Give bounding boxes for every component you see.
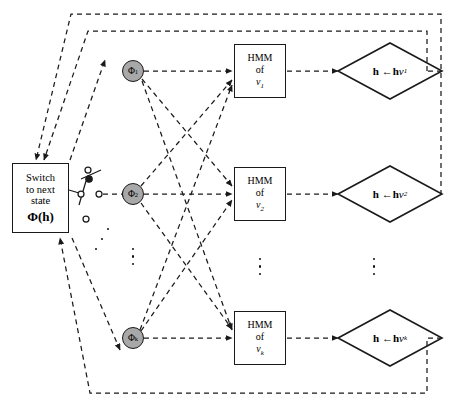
- edge-phi2-hmmk: [141, 203, 232, 329]
- switch-line-2: to next: [26, 184, 55, 195]
- switch-formula-close: ): [50, 209, 54, 224]
- hmm-block-1-line2: of: [256, 64, 264, 76]
- hmm-block-1[interactable]: HMM of v1: [234, 44, 286, 98]
- switch-to-next-state-box[interactable]: Switch to next state Φ(h): [12, 163, 69, 233]
- update-node-k[interactable]: h ←hvk: [338, 310, 442, 366]
- ellipsis-hmm-blocks: [259, 258, 261, 280]
- switch-contact-links: [69, 170, 101, 205]
- switch-return-up: [70, 60, 105, 160]
- update-node-2-arrow: ←: [382, 188, 393, 200]
- diagram-canvas: Switch to next state Φ(h) Φ1 Φ2 Φk HMM o…: [0, 0, 452, 407]
- ellipsis-state-nodes: [132, 248, 134, 270]
- phi-node-k-symbol: Φ: [128, 333, 135, 343]
- phi-node-k-subscript: k: [135, 335, 138, 342]
- phi-node-2-symbol: Φ: [128, 189, 135, 199]
- hmm-block-2-subscript: 2: [260, 205, 264, 213]
- phi-node-k[interactable]: Φk: [122, 327, 144, 349]
- update-node-1[interactable]: h ←hv1: [338, 43, 442, 99]
- update-node-2-subscript: 2: [404, 190, 408, 198]
- switch-line-3: state: [31, 195, 50, 206]
- phi-node-1-subscript: 1: [135, 68, 138, 75]
- hmm-block-2-variable: v2: [256, 199, 264, 214]
- switch-formula: Φ(h): [27, 210, 54, 224]
- hmm-block-k-subscript: k: [261, 349, 264, 357]
- phi-node-1[interactable]: Φ1: [122, 60, 144, 82]
- phi-node-2-subscript: 2: [135, 191, 138, 198]
- ellipsis-update-nodes: [373, 258, 375, 280]
- edge-phi1-hmmk: [142, 81, 232, 330]
- update-node-k-lhs: h: [373, 332, 379, 344]
- update-node-1-lhs: h: [373, 65, 379, 77]
- update-node-1-subscript: 1: [404, 67, 408, 75]
- update-node-2-lhs: h: [373, 188, 379, 200]
- edge-phik-hmm2: [141, 200, 232, 331]
- switch-formula-phi: Φ(: [27, 209, 42, 224]
- update-node-2[interactable]: h ←hv2: [338, 166, 442, 222]
- hmm-block-2-line2: of: [256, 187, 264, 199]
- switch-line-1: Switch: [26, 172, 55, 183]
- ellipsis-switch-contacts: [95, 228, 115, 262]
- hmm-block-2[interactable]: HMM of v2: [234, 167, 286, 221]
- hmm-block-k-line1: HMM: [247, 319, 272, 331]
- hmm-block-1-variable: v1: [256, 76, 264, 91]
- update-node-2-label: h ←hv2: [338, 166, 442, 222]
- hmm-block-1-line1: HMM: [247, 52, 272, 64]
- hmm-block-2-line1: HMM: [247, 175, 272, 187]
- update-node-k-label: h ←hvk: [338, 310, 442, 366]
- hmm-block-k-variable: vk: [256, 343, 264, 358]
- hmm-block-1-subscript: 1: [260, 82, 264, 90]
- phi-node-2[interactable]: Φ2: [122, 183, 144, 205]
- update-node-k-arrow: ←: [382, 332, 393, 344]
- phi-node-1-symbol: Φ: [128, 66, 135, 76]
- update-node-1-label: h ←hv1: [338, 43, 442, 99]
- update-node-1-arrow: ←: [382, 65, 393, 77]
- hmm-block-k-line2: of: [256, 331, 264, 343]
- hmm-block-k[interactable]: HMM of vk: [234, 311, 286, 365]
- switch-formula-h: h: [42, 209, 49, 224]
- update-node-k-subscript: k: [404, 334, 407, 342]
